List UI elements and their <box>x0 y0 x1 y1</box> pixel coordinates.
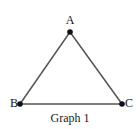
vertex-label-b: B <box>6 97 18 109</box>
graph-figure: A B C Graph 1 <box>0 0 140 129</box>
edge-a-c <box>70 32 122 104</box>
vertex-label-a: A <box>64 14 76 26</box>
edge-a-b <box>20 32 70 104</box>
vertex-c-dot <box>119 101 125 107</box>
graph-edges <box>20 32 122 104</box>
vertex-label-c: C <box>125 97 137 109</box>
figure-caption: Graph 1 <box>0 111 140 125</box>
graph-vertices <box>17 29 125 107</box>
vertex-a-dot <box>67 29 73 35</box>
vertex-b-dot <box>17 101 23 107</box>
